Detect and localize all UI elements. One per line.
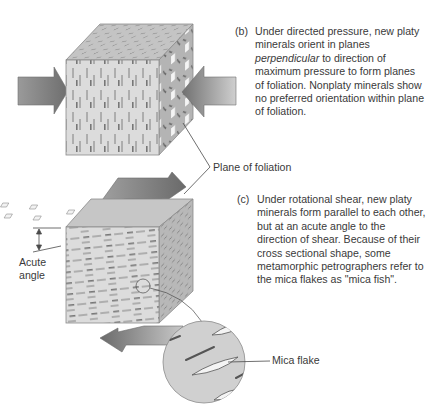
caption-c-body: Under rotational shear, new platy minera… <box>237 193 427 287</box>
acute-angle-label: Acute angle <box>19 256 59 282</box>
caption-b-emphasis: perpendicular <box>255 52 319 64</box>
pressure-arrow-left-icon <box>18 67 68 114</box>
mica-flake-label: Mica flake <box>272 354 320 367</box>
caption-c-letter: (c) <box>237 193 249 206</box>
caption-b: (b) Under directed pressure, new platy m… <box>235 25 425 119</box>
cube-directed-pressure <box>18 24 236 155</box>
caption-c: (c) Under rotational shear, new platy mi… <box>237 193 427 287</box>
plane-of-foliation-label: Plane of foliation <box>213 161 291 174</box>
caption-b-body: Under directed pressure, new platy miner… <box>235 25 425 119</box>
caption-b-letter: (b) <box>235 25 248 38</box>
acute-angle-marker <box>33 228 61 252</box>
plane-of-foliation-leader <box>183 123 210 194</box>
magnified-mica-lens <box>163 321 270 403</box>
caption-b-text-1: Under directed pressure, new platy miner… <box>255 25 419 50</box>
